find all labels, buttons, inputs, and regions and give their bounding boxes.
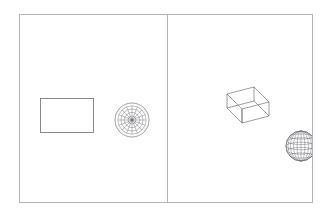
cad-viewport-window <box>0 0 331 213</box>
isometric-view-pane[interactable] <box>168 15 312 202</box>
top-view-pane[interactable] <box>20 15 168 202</box>
box-wireframe[interactable] <box>213 87 271 134</box>
viewport-frame <box>19 14 313 203</box>
box-rectangle[interactable] <box>40 98 94 133</box>
sphere-polar-circle[interactable] <box>114 102 150 138</box>
sphere-wireframe[interactable] <box>285 130 312 162</box>
